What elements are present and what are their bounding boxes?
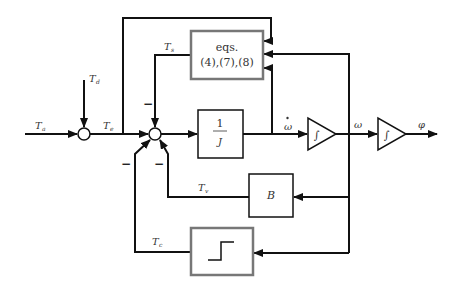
label-tv: T v (198, 182, 209, 194)
block-diagram: eqs. (4),(7),(8) 1 J ∫ ∫ B T a T d T e T… (0, 0, 462, 288)
label-te: T e (103, 120, 114, 132)
integrator-1 (308, 118, 336, 150)
eqs-line1: eqs. (216, 41, 239, 54)
inertia-denominator: J (216, 136, 223, 147)
tv-minus-sign: − (154, 157, 164, 171)
sum-junction-1 (78, 128, 90, 140)
label-ts: T s (164, 41, 174, 53)
inertia-numerator: 1 (217, 117, 224, 130)
svg-text:a: a (42, 125, 46, 132)
friction-step-block (191, 228, 253, 275)
damping-label: B (266, 189, 275, 202)
integrator-2 (378, 118, 406, 150)
svg-text:d: d (96, 78, 100, 85)
omega-to-eqs-line (264, 54, 349, 134)
sum-junction-2 (149, 128, 161, 140)
ts-minus-sign: − (143, 97, 153, 111)
eqs-line2: (4),(7),(8) (200, 56, 254, 69)
label-ta: T a (35, 120, 46, 132)
label-omega: ω (354, 119, 362, 130)
svg-text:ω: ω (284, 121, 292, 132)
label-phi: φ (418, 119, 425, 130)
svg-text:c: c (159, 241, 163, 248)
svg-text:s: s (171, 46, 174, 53)
integral-icon: ∫ (384, 129, 390, 142)
eqs-block (191, 31, 263, 79)
svg-text:e: e (110, 125, 114, 132)
label-td: T d (89, 73, 100, 85)
svg-text:v: v (205, 187, 209, 194)
integral-icon: ∫ (314, 129, 320, 142)
ts-line (155, 55, 191, 127)
label-omega-dot: ω (284, 117, 292, 132)
omega-dot-to-eqs-line (264, 68, 272, 134)
tc-minus-sign: − (121, 157, 131, 171)
label-tc: T c (152, 236, 163, 248)
